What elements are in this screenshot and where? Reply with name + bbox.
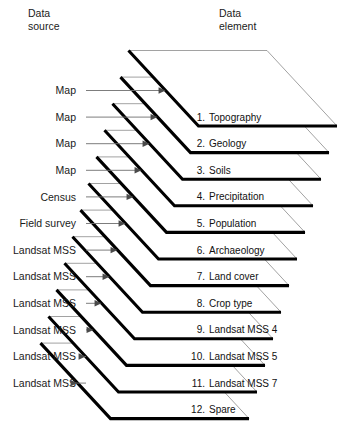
layer-caption: 2.Geology — [197, 138, 247, 149]
data-source-label: Landsat MSS — [13, 270, 76, 282]
data-source-label: Landsat MSS — [13, 244, 76, 256]
layer-number: 8. — [197, 298, 205, 309]
layer-number: 7. — [197, 271, 205, 282]
layer-caption: 3.Soils — [197, 165, 231, 176]
layer-element-label: Precipitation — [209, 191, 264, 202]
data-source-header-line2: source — [28, 20, 60, 32]
data-source-row[interactable]: Landsat MSS — [13, 350, 86, 362]
data-source-label: Field survey — [19, 217, 76, 229]
layer-element-label: Land cover — [209, 271, 259, 282]
layer-number: 1. — [197, 112, 205, 123]
data-source-label: Map — [56, 84, 77, 96]
data-source-label: Landsat MSS — [13, 377, 76, 389]
header-data-element: Data element — [219, 7, 256, 32]
layer-number: 5. — [197, 218, 205, 229]
data-source-label: Landsat MSS — [13, 350, 76, 362]
layer-number: 10. — [191, 351, 205, 362]
layer-number: 11. — [192, 378, 205, 389]
layer-element-label: Spare — [209, 404, 236, 415]
layer-number: 6. — [197, 245, 205, 256]
layer-element-label: Geology — [209, 138, 246, 149]
layer-number: 2. — [197, 138, 205, 149]
layer-element-label: Population — [209, 218, 256, 229]
layer-element-label: Topography — [209, 112, 261, 123]
layer-number: 9. — [197, 324, 205, 335]
data-source-label: Map — [56, 164, 77, 176]
data-source-label: Census — [40, 191, 76, 203]
data-source-label: Map — [56, 137, 77, 149]
layer-element-label: Soils — [209, 165, 231, 176]
layer-element-label: Landsat MSS 4 — [209, 324, 278, 335]
layer-caption: 9.Landsat MSS 4 — [197, 324, 278, 335]
data-source-label: Landsat MSS — [13, 297, 76, 309]
layer-caption: 10.Landsat MSS 5 — [191, 351, 278, 362]
layer-element-label: Landsat MSS 7 — [209, 378, 278, 389]
layer-element-label: Landsat MSS 5 — [209, 351, 278, 362]
data-layer-stack-diagram: Data source Data element MapMapMapMapCen… — [0, 0, 356, 421]
data-source-label: Map — [56, 111, 77, 123]
data-source-label: Landsat MSS — [13, 324, 76, 336]
data-element-header-line2: element — [219, 20, 256, 32]
layer-caption: 12.Spare — [191, 404, 236, 415]
layer-stack — [41, 51, 338, 419]
layer-element-label: Archaeology — [209, 245, 265, 256]
layer-number: 4. — [197, 191, 205, 202]
data-source-header-line1: Data — [28, 7, 50, 19]
layer-element-label: Crop type — [209, 298, 253, 309]
header-data-source: Data source — [28, 7, 60, 32]
layer-number: 12. — [191, 404, 205, 415]
layer-caption: 11.Landsat MSS 7 — [192, 378, 278, 389]
data-source-row[interactable]: Landsat MSS — [13, 377, 86, 389]
layer-number: 3. — [197, 165, 205, 176]
data-element-header-line1: Data — [219, 7, 241, 19]
